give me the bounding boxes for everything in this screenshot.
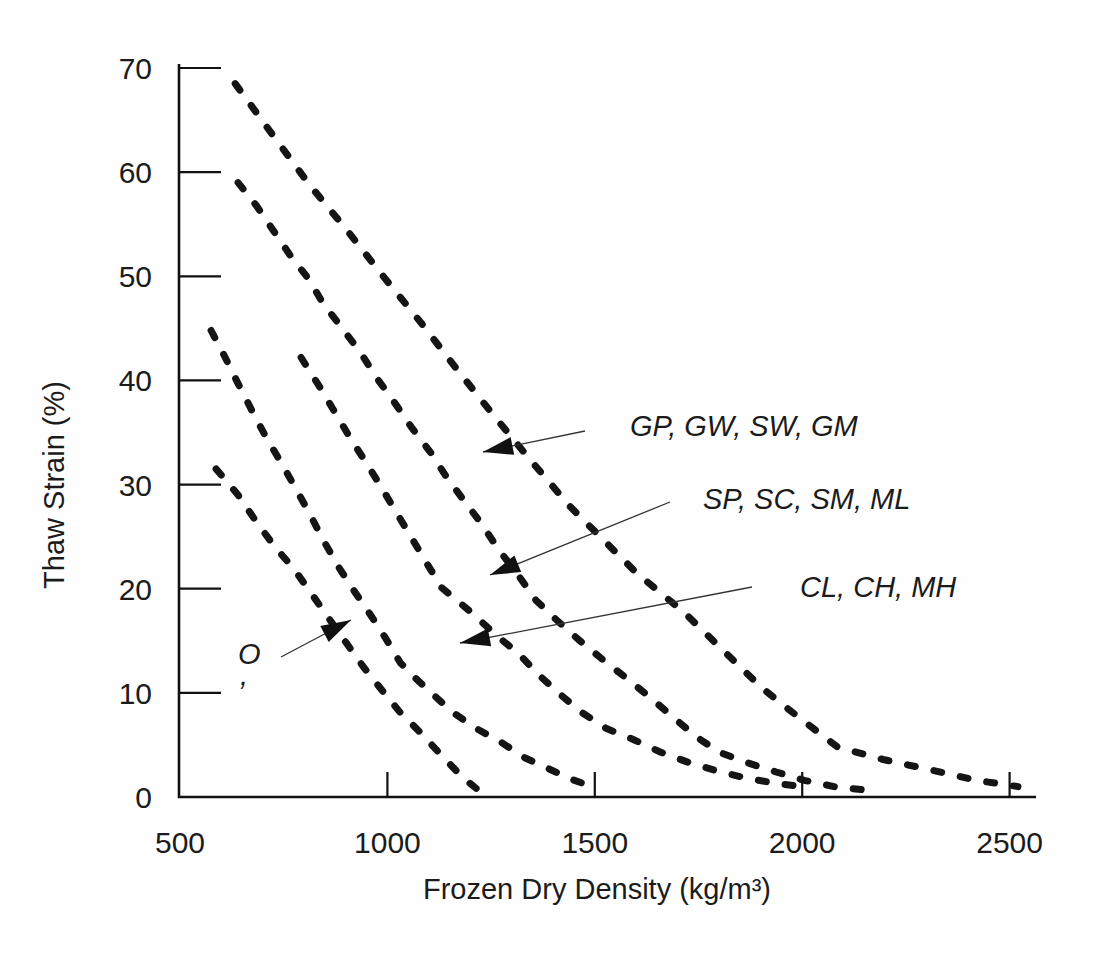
x-tick-labels: 5001000150020002500	[155, 826, 1043, 859]
x-tick-label-2000: 2000	[769, 826, 836, 859]
axes	[178, 64, 1036, 798]
y-tick-label-70: 70	[119, 52, 152, 85]
y-tick-labels: 010203040506070	[119, 52, 152, 814]
curve-o-lower-boundary	[216, 469, 477, 789]
annotation-label-: ,	[240, 659, 248, 691]
x-tick-label-1500: 1500	[561, 826, 628, 859]
annotation-arrowhead-cl-ch-mh	[460, 629, 491, 647]
annotation-arrowhead-gp-gw-sw-gm	[483, 437, 514, 455]
curve-gp-gw-sw-gm-upper-boundary	[235, 84, 1018, 787]
y-tick-label-20: 20	[119, 573, 152, 606]
y-axis-title: Thaw Strain (%)	[38, 381, 70, 589]
thaw-strain-vs-density-chart: 010203040506070 5001000150020002500 GP, …	[0, 0, 1100, 968]
x-tick-label-500: 500	[155, 826, 205, 859]
x-tick-label-2500: 2500	[976, 826, 1043, 859]
curve-cl-band-o-band-boundary	[211, 331, 595, 788]
y-tick-label-50: 50	[119, 260, 152, 293]
x-tick-label-1000: 1000	[354, 826, 421, 859]
x-axis-title: Frozen Dry Density (kg/m³)	[423, 873, 771, 905]
dashed-curves	[211, 84, 1018, 790]
annotation-label-sp-sc-sm-ml: SP, SC, SM, ML	[703, 483, 910, 515]
y-tick-label-0: 0	[135, 781, 152, 814]
annotation-label-cl-ch-mh: CL, CH, MH	[800, 571, 956, 603]
x-axis-ticks	[387, 772, 1009, 797]
y-axis-ticks	[180, 68, 221, 693]
annotation-label-gp-gw-sw-gm: GP, GW, SW, GM	[630, 410, 859, 442]
y-tick-label-30: 30	[119, 469, 152, 502]
y-tick-label-60: 60	[119, 156, 152, 189]
scanned-chart-page: 010203040506070 5001000150020002500 GP, …	[0, 0, 1100, 968]
y-tick-label-40: 40	[119, 364, 152, 397]
y-tick-label-10: 10	[119, 677, 152, 710]
band-labels-and-arrows: GP, GW, SW, GMSP, SC, SM, MLCL, CH, MHO,	[238, 410, 956, 691]
